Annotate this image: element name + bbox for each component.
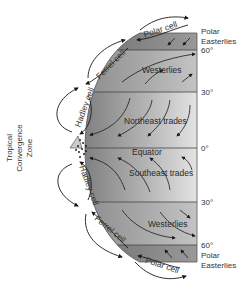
south-polar-label-line1: Polar	[201, 251, 220, 260]
svg-text:Tropical: Tropical	[5, 134, 14, 162]
lat-label-s60: 60°	[201, 241, 213, 250]
svg-text:Convergence: Convergence	[15, 124, 24, 172]
south-westerlies-label: Westerlies	[148, 219, 188, 229]
southeast-trades-label: Southeast trades	[129, 168, 193, 178]
south-polar-label-line2: Easterlies	[201, 261, 236, 270]
north-westerlies-label: Westerlies	[142, 65, 182, 75]
lat-label-n60: 60°	[201, 46, 213, 55]
circulation-diagram: Polar cell Ferrel cell Hadley cell Hadle…	[0, 0, 252, 290]
north-polar-label-line2: Easterlies	[201, 37, 236, 46]
north-polar-label-line1: Polar	[201, 27, 220, 36]
northeast-trades-label: Northeast trades	[124, 116, 187, 126]
equator-label: Equator	[132, 147, 162, 157]
svg-text:Zone: Zone	[25, 138, 34, 157]
lat-label-n30: 30°	[201, 88, 213, 97]
convergence-zone-clouds	[70, 136, 87, 158]
lat-label-s30: 30°	[201, 198, 213, 207]
itcz-label: Tropical Convergence Zone	[5, 124, 34, 172]
lat-label-eq: 0°	[201, 144, 209, 153]
south-hadley-cell-bottom	[58, 164, 78, 206]
